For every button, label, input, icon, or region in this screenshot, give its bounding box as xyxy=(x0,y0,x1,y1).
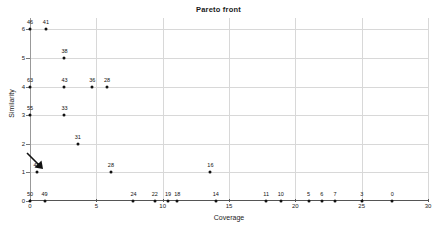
data-point-label: 0 xyxy=(391,191,394,197)
x-tick-label: 30 xyxy=(425,203,432,209)
data-point-label: 19 xyxy=(165,191,171,197)
data-point[interactable] xyxy=(29,85,32,88)
data-point[interactable] xyxy=(279,200,282,203)
gridline-vertical xyxy=(295,18,296,201)
x-tick xyxy=(96,199,97,202)
y-tick-label: 0 xyxy=(22,198,25,204)
y-tick xyxy=(26,58,30,59)
data-point[interactable] xyxy=(63,85,66,88)
data-point-label: 28 xyxy=(104,77,110,83)
data-point[interactable] xyxy=(44,28,47,31)
x-tick-label: 15 xyxy=(226,203,233,209)
data-point[interactable] xyxy=(76,142,79,145)
data-point[interactable] xyxy=(29,200,32,203)
gridline-vertical xyxy=(163,18,164,201)
data-point-label: 3 xyxy=(360,191,363,197)
x-tick xyxy=(428,199,429,202)
data-point[interactable] xyxy=(391,200,394,203)
x-tick-label: 5 xyxy=(95,203,98,209)
data-point[interactable] xyxy=(63,114,66,117)
data-point-label: 28 xyxy=(108,162,114,168)
data-point-label: 22 xyxy=(152,191,158,197)
data-point[interactable] xyxy=(334,200,337,203)
data-point-label: 43 xyxy=(61,77,67,83)
gridline-vertical xyxy=(96,18,97,201)
gridline-horizontal xyxy=(30,87,428,88)
data-point-label: 16 xyxy=(207,162,213,168)
data-point[interactable] xyxy=(132,200,135,203)
x-tick-label: 0 xyxy=(28,203,31,209)
gridline-horizontal xyxy=(30,29,428,30)
data-point-label: 50 xyxy=(27,191,33,197)
data-point[interactable] xyxy=(29,28,32,31)
data-point-label: 33 xyxy=(61,105,67,111)
gridline-horizontal xyxy=(30,144,428,145)
data-point-label: 10 xyxy=(278,191,284,197)
data-point[interactable] xyxy=(166,200,169,203)
data-point-label: 36 xyxy=(89,77,95,83)
annotation-arrow-icon xyxy=(24,150,50,176)
data-point[interactable] xyxy=(153,200,156,203)
gridline-vertical xyxy=(362,18,363,201)
plot-area: 0510152025300123456 46413863433628553331… xyxy=(30,18,428,201)
data-point[interactable] xyxy=(29,114,32,117)
x-tick xyxy=(163,199,164,202)
data-point-label: 6 xyxy=(320,191,323,197)
x-tick-label: 20 xyxy=(292,203,299,209)
x-axis-label: Coverage xyxy=(30,214,428,221)
data-point-label: 18 xyxy=(174,191,180,197)
data-point-label: 55 xyxy=(27,105,33,111)
data-point[interactable] xyxy=(43,200,46,203)
data-point-label: 38 xyxy=(61,48,67,54)
data-point[interactable] xyxy=(360,200,363,203)
data-point-label: 46 xyxy=(27,19,33,25)
data-point[interactable] xyxy=(91,85,94,88)
chart-figure: Pareto front 0510152025300123456 4641386… xyxy=(0,0,437,234)
y-axis-label: Similarity xyxy=(8,69,15,139)
data-point[interactable] xyxy=(63,57,66,60)
gridline-horizontal xyxy=(30,115,428,116)
x-tick-label: 25 xyxy=(358,203,365,209)
y-tick-label: 2 xyxy=(22,141,25,147)
data-point[interactable] xyxy=(214,200,217,203)
x-tick xyxy=(229,199,230,202)
data-point-label: 7 xyxy=(334,191,337,197)
data-point-label: 24 xyxy=(130,191,136,197)
data-point[interactable] xyxy=(320,200,323,203)
data-point[interactable] xyxy=(209,171,212,174)
gridline-horizontal xyxy=(30,172,428,173)
y-tick-label: 4 xyxy=(22,84,25,90)
gridline-horizontal xyxy=(30,58,428,59)
data-point[interactable] xyxy=(109,171,112,174)
x-tick-label: 10 xyxy=(159,203,166,209)
y-tick-label: 5 xyxy=(22,55,25,61)
chart-title: Pareto front xyxy=(0,5,437,14)
y-tick-label: 6 xyxy=(22,26,25,32)
data-point-label: 5 xyxy=(307,191,310,197)
data-point-label: 41 xyxy=(43,19,49,25)
y-tick xyxy=(26,144,30,145)
data-point-label: 31 xyxy=(75,134,81,140)
data-point[interactable] xyxy=(307,200,310,203)
data-point-label: 14 xyxy=(213,191,219,197)
data-point[interactable] xyxy=(176,200,179,203)
data-point[interactable] xyxy=(265,200,268,203)
y-tick-label: 3 xyxy=(22,112,25,118)
data-point-label: 49 xyxy=(42,191,48,197)
gridline-vertical xyxy=(229,18,230,201)
gridline-vertical xyxy=(428,18,429,201)
data-point-label: 11 xyxy=(263,191,269,197)
data-point[interactable] xyxy=(105,85,108,88)
data-point-label: 63 xyxy=(27,77,33,83)
x-tick xyxy=(295,199,296,202)
